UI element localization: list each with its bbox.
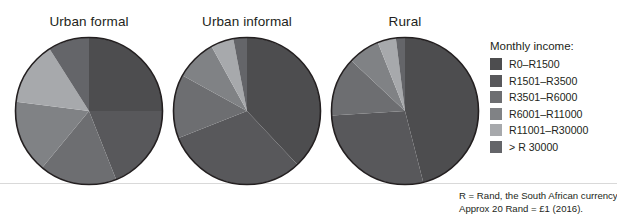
legend-item-r0-r1500: R0–R1500 [490,57,617,71]
legend-label: R0–R1500 [509,58,560,70]
legend-item-over-r30000: > R 30000 [490,140,617,154]
pie-slice [89,38,163,112]
footnote-line-1: R = Rand, the South African currency. [459,189,617,202]
pie-title-urban-informal: Urban informal [172,14,322,29]
legend-item-r6001-r11000: R6001–R11000 [490,107,617,121]
footnote-line-2: Approx 20 Rand = £1 (2016). [459,202,617,215]
legend-swatch-icon [490,124,502,136]
legend-label: R6001–R11000 [509,108,582,120]
legend-swatch-icon [490,108,502,120]
pie-title-urban-formal: Urban formal [14,14,164,29]
legend-title: Monthly income: [490,40,617,52]
legend-swatch-icon [490,58,502,70]
pie-title-rural: Rural [330,14,480,29]
legend-swatch-icon [490,91,502,103]
legend-label: R11001–R30000 [509,124,588,136]
pie-svg-urban-informal [172,36,322,186]
footnote: R = Rand, the South African currency. Ap… [459,189,617,215]
pie-svg-urban-formal [14,36,164,186]
legend: Monthly income: R0–R1500 R1501–R3500 R35… [490,40,617,156]
legend-swatch-icon [490,141,502,153]
legend-label: > R 30000 [509,141,558,153]
legend-swatch-icon [490,75,502,87]
legend-item-r3501-r6000: R3501–R6000 [490,90,617,104]
legend-item-r1501-r3500: R1501–R3500 [490,74,617,88]
pie-svg-rural [330,36,480,186]
legend-item-r11001-r30000: R11001–R30000 [490,123,617,137]
legend-label: R3501–R6000 [509,91,577,103]
legend-label: R1501–R3500 [509,75,577,87]
pie-chart-figure: Urban formal Urban informal Rural Monthl… [0,0,617,224]
